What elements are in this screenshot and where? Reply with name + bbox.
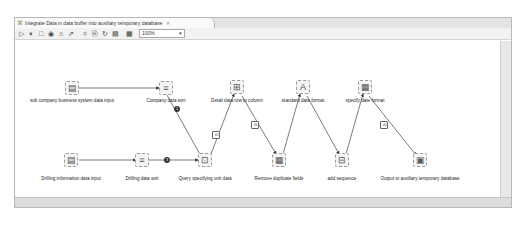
stop-icon[interactable]: □ — [37, 30, 45, 38]
sort-icon: ≡ — [163, 83, 168, 93]
job-icon: ⌘ — [17, 20, 23, 26]
lock-icon[interactable]: ⌂ — [57, 30, 65, 38]
query-icon: ⊡ — [201, 155, 209, 165]
export-icon[interactable]: ⇗ — [67, 30, 75, 38]
database-output-icon: ▣ — [416, 155, 425, 165]
horizontal-scrollbar[interactable] — [15, 197, 511, 207]
pause-icon[interactable]: ⏸ — [27, 30, 35, 38]
node-sub-company-input[interactable]: ▤ — [65, 81, 79, 95]
connections — [15, 41, 501, 198]
node-label: add sequence — [328, 176, 357, 181]
job-editor-window: ⌘ Integrate Data in data buffer into aux… — [14, 17, 512, 208]
node-label: Output to auxiliary temporary database — [380, 176, 459, 181]
copy-icon[interactable]: ⎘ — [91, 30, 99, 38]
node-add-sequence[interactable]: ⊟ — [335, 153, 349, 167]
vertical-scrollbar[interactable] — [500, 41, 511, 198]
node-label: Query specifying unit data — [178, 176, 231, 181]
node-label: Remove duplicate fields — [255, 176, 304, 181]
design-canvas[interactable]: ▤ sub company business system data input… — [15, 41, 501, 198]
node-standard-data-format[interactable]: A — [296, 80, 310, 94]
grid-icon[interactable]: ▦ — [125, 30, 133, 38]
preview-icon[interactable]: ◉ — [47, 30, 55, 38]
row-connector-icon[interactable]: ⊡ — [251, 121, 259, 129]
node-label: Drilling data sort — [125, 176, 158, 181]
node-row-to-column[interactable]: ⊞ — [230, 80, 244, 94]
node-remove-duplicates[interactable]: ▦ — [272, 153, 286, 167]
node-output-temp-db[interactable]: ▣ — [413, 153, 427, 167]
toolbar: ▷ ⏸ □ ◉ ⌂ ⇗ ⌗ ⎘ ↻ ▤ ▦ 100% ▾ — [15, 28, 511, 40]
node-label: Drilling information data input — [41, 176, 101, 181]
dedupe-icon: ▦ — [275, 155, 284, 165]
sort-icon: ≡ — [139, 155, 144, 165]
row-connector-icon[interactable]: ⊡ — [380, 121, 388, 129]
node-company-data-sort[interactable]: ≡ — [159, 81, 173, 95]
file-input-icon: ▤ — [67, 155, 76, 165]
date-format-icon: ▦ — [361, 82, 370, 92]
node-specify-date-format[interactable]: ▦ — [358, 80, 372, 94]
file-input-icon: ▤ — [68, 83, 77, 93]
node-label: Company data sort — [147, 98, 186, 103]
row-to-column-icon: ⊞ — [233, 82, 241, 92]
node-label: sub company business system data input — [30, 98, 114, 103]
node-drilling-data-sort[interactable]: ≡ — [135, 153, 149, 167]
lookup-connector-icon[interactable]: ⊡ — [212, 131, 220, 139]
layout-icon[interactable]: ▤ — [111, 30, 119, 38]
sequence-icon: ⊟ — [338, 155, 346, 165]
format-icon: A — [300, 82, 306, 92]
zoom-select[interactable]: 100% ▾ — [139, 29, 185, 38]
node-label: Detail data row to column — [211, 98, 263, 103]
align-icon[interactable]: ⌗ — [81, 30, 89, 38]
run-icon[interactable]: ▷ — [17, 30, 25, 38]
zoom-value: 100% — [142, 30, 155, 36]
connector-order-badge: 3 — [164, 157, 170, 163]
connector-order-badge: 1 — [174, 106, 180, 112]
node-drilling-info-input[interactable]: ▤ — [64, 153, 78, 167]
tab-strip: ⌘ Integrate Data in data buffer into aux… — [15, 18, 511, 28]
chevron-down-icon: ▾ — [179, 30, 182, 37]
node-query-unit-data[interactable]: ⊡ — [198, 153, 212, 167]
node-label: specify date format — [346, 98, 385, 103]
tab-job-editor[interactable]: ⌘ Integrate Data in data buffer into aux… — [15, 18, 215, 28]
close-icon[interactable]: ✕ — [166, 20, 170, 26]
refresh-icon[interactable]: ↻ — [101, 30, 109, 38]
node-label: standard data format — [282, 98, 324, 103]
tab-title: Integrate Data in data buffer into auxil… — [25, 20, 162, 26]
